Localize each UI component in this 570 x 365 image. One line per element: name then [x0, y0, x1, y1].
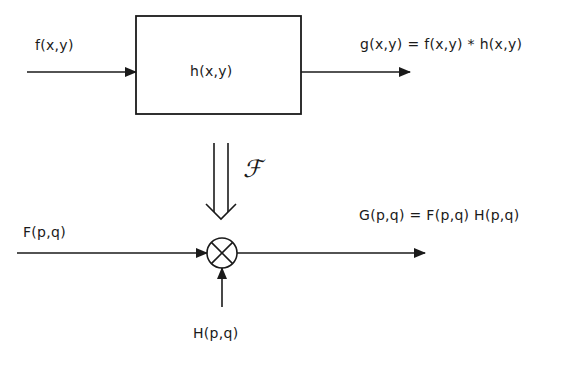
block-diagram	[0, 0, 570, 365]
input-label-frequency: F(p,q)	[23, 224, 66, 240]
output-label-frequency: G(p,q) = F(p,q) H(p,q)	[359, 207, 520, 223]
transfer-function-label: H(p,q)	[193, 325, 238, 341]
system-label: h(x,y)	[190, 63, 233, 79]
fourier-transform-symbol: ℱ	[243, 155, 262, 183]
input-label-spatial: f(x,y)	[35, 37, 74, 53]
output-label-spatial: g(x,y) = f(x,y) * h(x,y)	[360, 36, 522, 52]
multiplier-icon	[207, 238, 237, 268]
double-arrow-icon	[206, 143, 236, 219]
